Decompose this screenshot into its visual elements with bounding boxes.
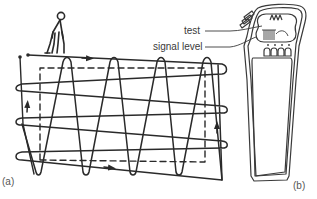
indicator-dots [267,44,290,46]
arrow-right-icon [104,167,112,168]
person-walking-icon [45,12,65,53]
device-display-window [256,14,297,42]
indicator-lamps [264,48,291,56]
callout-label-signal-level: signal level [153,41,202,52]
panel-label-b: (b) [293,180,305,191]
panel-label-a: (a) [2,176,14,187]
figure-canvas [0,0,317,199]
signal-level-bar-icon [262,30,288,40]
panel-a-sweep-diagram [16,12,227,180]
device-grip-ridges [240,11,254,28]
test-button-icon [270,15,282,20]
arrow-up-icon [27,104,28,112]
device-lower-panel [252,58,292,176]
callout-label-test: test [184,25,200,36]
